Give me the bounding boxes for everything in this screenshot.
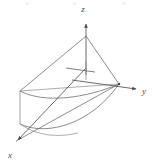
- y-axis-surface-node: [118, 83, 120, 85]
- ruling-apex-to-left-top: [20, 36, 86, 91]
- axis-tick-crossbar: [66, 68, 95, 72]
- upper-arc-curve: [20, 84, 119, 98]
- z-axis-label: z: [80, 4, 85, 14]
- surface-arcs: [20, 84, 119, 135]
- ruling-apex-to-y-point: [86, 36, 119, 84]
- coordinate-axes: [18, 24, 136, 140]
- x-axis-label: x: [7, 150, 12, 160]
- math-figure-3d-surface: z y x: [0, 0, 152, 163]
- y-axis-label: y: [141, 86, 146, 96]
- x-axis-line: [18, 68, 86, 140]
- figure-canvas: z y x: [0, 0, 152, 163]
- ruling-y-point-to-x-tip: [16, 84, 119, 141]
- y-axis-line: [72, 80, 136, 89]
